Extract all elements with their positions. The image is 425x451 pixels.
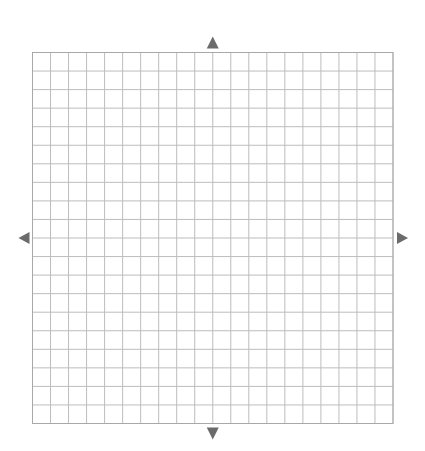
grid-lines [33,53,394,424]
arrow-left-icon [19,232,30,244]
arrow-right-icon [397,232,408,244]
grid-svg [0,0,425,451]
arrow-up-icon [207,37,219,49]
arrow-down-icon [207,428,219,440]
coordinate-plane [0,0,425,451]
